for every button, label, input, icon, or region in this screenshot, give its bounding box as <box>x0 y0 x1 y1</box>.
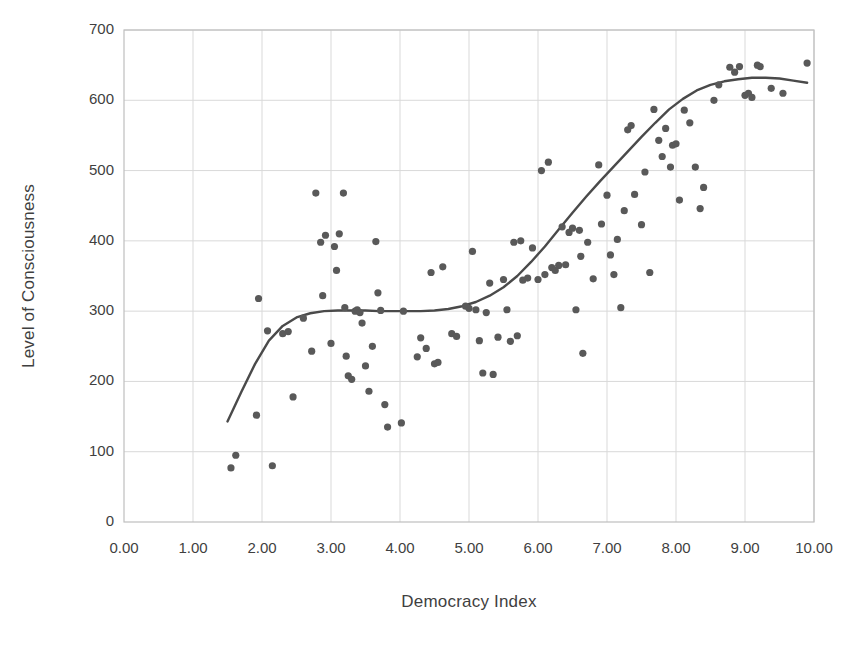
gridlines <box>124 30 814 522</box>
x-tick-label: 0.00 <box>89 539 159 556</box>
scatter-chart: 0100200300400500600700 0.001.002.003.004… <box>0 0 861 653</box>
x-tick-label: 1.00 <box>158 539 228 556</box>
x-tick-label: 7.00 <box>572 539 642 556</box>
x-axis-title: Democracy Index <box>124 592 814 612</box>
y-tick-label: 200 <box>54 371 114 388</box>
x-tick-label: 9.00 <box>710 539 780 556</box>
y-tick-label: 500 <box>54 161 114 178</box>
trend-line <box>228 78 808 422</box>
x-tick-label: 2.00 <box>227 539 297 556</box>
y-tick-label: 600 <box>54 90 114 107</box>
y-tick-label: 300 <box>54 301 114 318</box>
x-tick-label: 6.00 <box>503 539 573 556</box>
x-tick-label: 3.00 <box>296 539 366 556</box>
y-tick-label: 400 <box>54 231 114 248</box>
y-tick-label: 700 <box>54 20 114 37</box>
y-axis-title: Level of Consciousness <box>14 30 44 522</box>
data-points <box>227 59 810 471</box>
x-tick-label: 4.00 <box>365 539 435 556</box>
y-axis-title-text: Level of Consciousness <box>19 184 39 368</box>
x-tick-label: 5.00 <box>434 539 504 556</box>
x-tick-label: 10.00 <box>779 539 849 556</box>
y-tick-label: 100 <box>54 442 114 459</box>
y-tick-label: 0 <box>54 512 114 529</box>
x-tick-label: 8.00 <box>641 539 711 556</box>
